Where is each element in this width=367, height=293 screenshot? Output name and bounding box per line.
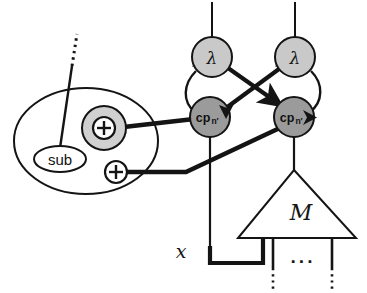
sub-stem-solid — [60, 66, 72, 148]
sub-node[interactable]: sub — [34, 146, 86, 172]
top-input-wires — [212, 2, 295, 40]
crossing-edges — [226, 68, 282, 108]
x-elbow-wire — [210, 238, 263, 263]
lambda-left-label: λ — [206, 48, 218, 68]
lambda-node-right[interactable]: λ — [275, 37, 315, 77]
cp-node-left[interactable]: cp n′ — [190, 97, 230, 137]
output-ellipsis-label: ··· — [291, 251, 316, 272]
module-triangle[interactable]: M — [238, 170, 356, 238]
lambda-node-left[interactable]: λ — [192, 37, 232, 77]
input-x-label: x — [176, 240, 187, 262]
plus-node-upper[interactable] — [82, 106, 126, 150]
module-output-legs: ··· — [273, 238, 332, 291]
module-label: M — [289, 200, 313, 225]
cp-left-label: cp — [196, 111, 211, 125]
cp-right-label: cp — [280, 111, 295, 125]
circuit-diagram: λ λ M — [0, 0, 367, 293]
sub-node-label: sub — [48, 151, 72, 168]
lambda-right-label: λ — [289, 48, 301, 68]
sub-stem-dotted — [72, 34, 77, 66]
x-output-wire — [210, 134, 263, 263]
edge-cp-left-to-lambda-right — [226, 69, 279, 108]
cp-left-sublabel: n′ — [211, 116, 218, 126]
plus-node-lower[interactable] — [105, 161, 127, 183]
cp-right-sublabel: n′ — [295, 116, 302, 126]
diagram-canvas: λ λ M — [0, 0, 367, 293]
